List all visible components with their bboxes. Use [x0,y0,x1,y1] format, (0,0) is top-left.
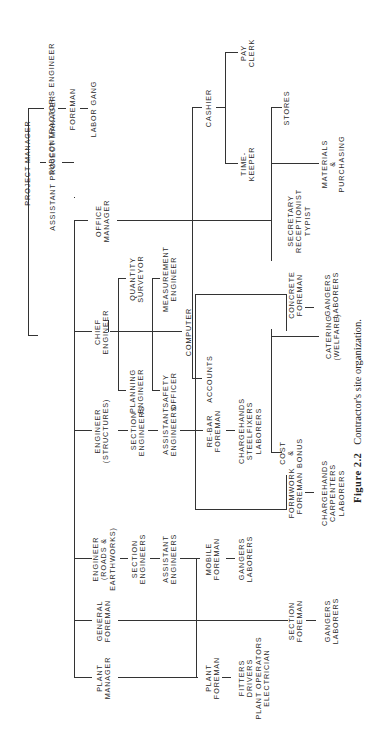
connector [195,295,196,510]
connector [110,331,182,332]
figure-number: Figure 2.2 [352,453,363,503]
connector [58,108,66,109]
connector [152,278,160,279]
connector [118,430,128,431]
connector [192,107,202,108]
connector [74,558,92,559]
node-plant-crew: FITTERS DRIVERS PLANT OPERATORS ELECTRIC… [238,637,271,720]
figure-caption: Figure 2.2Contractor's site organization… [352,319,363,503]
node-pay-clerk: PAY CLERK [240,39,257,67]
connector [118,279,119,391]
connector [225,163,238,164]
node-section-gangers: GANGERS LABORERS [324,598,341,644]
node-section-foreman: SECTION FOREMAN [288,600,305,642]
connector [195,509,287,510]
trunk [74,197,75,198]
node-computer: COMPUTER [185,308,193,356]
node-catering: CATERING (WELFARE) [325,313,342,360]
connector [118,620,288,621]
node-sub-foreman: FOREMAN [69,88,77,130]
connector [216,107,225,108]
node-office-manager: OFFICE MANAGER [95,200,112,243]
node-mobile-gangers: GANGERS LABORERS [238,536,255,582]
node-general-foreman: GENERAL FOREMAN [96,600,113,642]
node-cost-bonus: COST & BONUS [279,438,304,468]
connector [150,558,160,559]
node-labor-gang: LABOR GANG [90,81,98,138]
figure-caption-text: Contractor's site organization. [352,319,363,445]
connector [80,108,88,109]
node-accounts: ACCOUNTS [206,355,214,403]
node-assistant-engineers-structures: ASSISTANT ENGINEERS [162,406,179,456]
connector [271,329,272,453]
connector [222,677,231,678]
connector [74,220,88,221]
level1-trunk [74,221,75,678]
connector [180,430,196,431]
node-engineer-roads: ENGINEER (ROADS & EARTHWORKS) [92,527,117,591]
node-formwork-crew: CHARGEHANDS CARPENTERS LABORERS [321,460,346,526]
connector [118,390,126,391]
connector [152,390,160,391]
connector [74,430,92,431]
connector [225,53,226,164]
node-project-manager: PROJECT MANAGER [24,120,32,205]
node-cashier: CASHIER [205,89,213,127]
connector [271,107,282,108]
node-concrete-gangers: GANGERS LABORERS [324,272,341,318]
node-safety-officer: SAFETY OFFICER [162,372,179,410]
connector [118,278,126,279]
connector [40,162,46,163]
connector [180,558,200,559]
node-formwork-foreman: FORMWORK FOREMAN [288,468,305,519]
connector [148,430,158,431]
node-section-engineers-structures: SECTION ENGINEERS [130,406,147,456]
node-stores: STORES [283,91,291,126]
connector [225,52,238,53]
connector [226,558,235,559]
connector [28,108,44,109]
node-concrete-foreman: CONCRETE FOREMAN [288,271,305,319]
connector [152,279,153,391]
connector [305,307,314,308]
node-assistant-engineers-roads: ASSISTANT ENGINEERS [162,534,179,584]
org-chart: PROJECT MANAGER SUBCONTRACTOR'S ENGINEER… [0,0,369,733]
node-measurement-engineer: MEASUREMENT ENGINEER [162,246,179,312]
connector [62,162,74,163]
connector [118,677,198,678]
node-timekeeper: TIME- KEEPER [240,147,257,182]
connector [305,492,314,493]
node-secretary: SECRETARY RECEPTIONIST TYPIST [287,189,312,253]
node-plant-foreman: PLANT FOREMAN [205,657,222,699]
node-assistant-project-manager: ASSISTANT PROJECT MANAGER [49,95,57,231]
node-rebar-crew: CHARGEHANDS STEELFIXERS LABORERS [238,398,263,464]
connector [117,220,271,221]
node-materials-purchasing: MATERIALS & PURCHASING [321,136,346,193]
node-mobile-foreman: MOBILE FOREMAN [205,538,222,580]
connector [74,677,92,678]
node-plant-manager: PLANT MANAGER [96,657,113,700]
connector [226,430,235,431]
connector [192,378,202,379]
node-rebar-foreman: RE-BAR FOREMAN [206,410,223,452]
connector [195,294,287,295]
connector [271,163,319,164]
connector [306,620,316,621]
node-engineer-structures: ENGINEER (STRUCTURES) [94,399,111,464]
connector [120,558,128,559]
connector [196,558,197,678]
node-section-engineers-roads: SECTION ENGINEERS [131,534,148,584]
connector [74,331,92,332]
connector [28,335,38,336]
node-chief-engineer: CHIEF ENGINEER [94,310,111,355]
node-quantity-surveyor: QUANTITY SURVEYOR [129,255,146,302]
connector [271,336,319,337]
connector [271,108,272,261]
connector [74,620,92,621]
connector [195,430,203,431]
